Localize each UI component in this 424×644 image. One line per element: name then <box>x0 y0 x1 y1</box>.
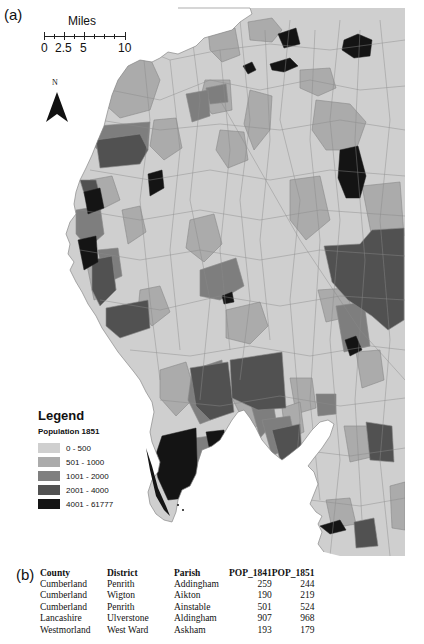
scale-bar: Miles 0 2.5 5 10 <box>40 14 130 54</box>
scale-tick <box>74 34 75 39</box>
cell-district: Penrith <box>107 578 174 590</box>
cell-parish: Aldingham <box>174 613 229 625</box>
scale-bar-title: Miles <box>68 14 96 28</box>
table-row: Cumberland Wigton Aikton 190 219 <box>40 590 315 602</box>
north-arrow-icon <box>46 92 68 122</box>
scale-tick <box>94 34 95 39</box>
legend-swatch <box>38 457 60 467</box>
cell-parish: Aikton <box>174 590 229 602</box>
scale-label: 0 <box>41 41 48 55</box>
scale-label: 2.5 <box>55 41 72 55</box>
scale-label: 10 <box>118 41 131 55</box>
panel-b-label: (b) <box>16 566 34 583</box>
legend-swatch <box>38 485 60 495</box>
table-row: Cumberland Penrith Ainstable 501 524 <box>40 601 315 613</box>
scale-tick <box>104 34 105 39</box>
legend-swatch <box>38 471 60 481</box>
cell-pop-1841: 907 <box>229 613 272 625</box>
cell-pop-1841: 193 <box>229 624 272 636</box>
cell-pop-1851: 968 <box>272 613 315 625</box>
cell-pop-1851: 524 <box>272 601 315 613</box>
cell-parish: Askham <box>174 624 229 636</box>
scale-tick <box>64 32 65 40</box>
legend-label: 4001 - 61777 <box>66 500 113 509</box>
legend-title: Legend <box>38 408 148 423</box>
legend-item: 4001 - 61777 <box>38 497 148 511</box>
cell-parish: Addingham <box>174 578 229 590</box>
legend-item: 1001 - 2000 <box>38 469 148 483</box>
legend-label: 2001 - 4000 <box>66 486 109 495</box>
scale-tick <box>84 32 85 40</box>
legend-item: 501 - 1000 <box>38 455 148 469</box>
table-header-row: County District Parish POP_1841 POP_1851 <box>40 567 315 578</box>
cell-pop-1841: 190 <box>229 590 272 602</box>
column-header-pop-1841: POP_1841 <box>229 567 272 578</box>
cell-county: Lancashire <box>40 613 107 625</box>
legend-label: 501 - 1000 <box>66 458 104 467</box>
panel-a-label: (a) <box>4 6 22 23</box>
table-row: Cumberland Penrith Addingham 259 244 <box>40 578 315 590</box>
map-legend: Legend Population 1851 0 - 500 501 - 100… <box>38 408 148 511</box>
cell-pop-1851: 219 <box>272 590 315 602</box>
scale-label: 5 <box>80 41 87 55</box>
cell-county: Cumberland <box>40 578 107 590</box>
legend-item: 0 - 500 <box>38 441 148 455</box>
legend-subtitle: Population 1851 <box>38 427 148 436</box>
cell-district: Ulverstone <box>107 613 174 625</box>
cell-parish: Ainstable <box>174 601 229 613</box>
scale-tick <box>54 34 55 39</box>
cell-district: West Ward <box>107 624 174 636</box>
scale-tick <box>44 32 45 40</box>
cell-pop-1851: 244 <box>272 578 315 590</box>
cell-district: Penrith <box>107 601 174 613</box>
north-label: N <box>52 78 58 87</box>
north-arrow: N <box>44 78 74 138</box>
column-header-county: County <box>40 567 107 578</box>
cell-county: Cumberland <box>40 590 107 602</box>
table-row: Lancashire Ulverstone Aldingham 907 968 <box>40 613 315 625</box>
legend-label: 1001 - 2000 <box>66 472 109 481</box>
table-row: Westmorland West Ward Askham 193 179 <box>40 624 315 636</box>
scale-tick <box>114 34 115 39</box>
cell-county: Westmorland <box>40 624 107 636</box>
column-header-parish: Parish <box>174 567 229 578</box>
attribute-table: County District Parish POP_1841 POP_1851… <box>40 567 315 636</box>
cell-district: Wigton <box>107 590 174 602</box>
scale-tick <box>125 32 126 40</box>
column-header-pop-1851: POP_1851 <box>272 567 315 578</box>
cell-pop-1841: 259 <box>229 578 272 590</box>
legend-swatch <box>38 499 60 509</box>
legend-swatch <box>38 443 60 453</box>
cell-pop-1841: 501 <box>229 601 272 613</box>
legend-label: 0 - 500 <box>66 444 91 453</box>
legend-item: 2001 - 4000 <box>38 483 148 497</box>
cell-county: Cumberland <box>40 601 107 613</box>
cell-pop-1851: 179 <box>272 624 315 636</box>
column-header-district: District <box>107 567 174 578</box>
